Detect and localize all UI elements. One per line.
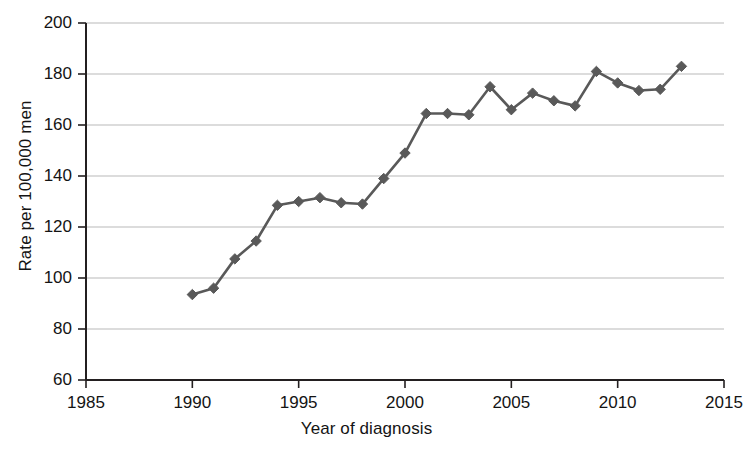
data-point-marker bbox=[315, 192, 325, 202]
data-point-marker bbox=[336, 198, 346, 208]
y-axis-tick-label: 60 bbox=[12, 371, 72, 388]
y-axis-tick-label: 160 bbox=[12, 116, 72, 133]
data-line bbox=[192, 66, 681, 294]
y-axis-tick-label: 180 bbox=[12, 65, 72, 82]
y-axis-tick-label: 200 bbox=[12, 14, 72, 31]
data-point-marker bbox=[442, 108, 452, 118]
y-axis-tick-label: 120 bbox=[12, 218, 72, 235]
data-point-marker bbox=[634, 85, 644, 95]
x-axis-tick-label: 2000 bbox=[365, 394, 445, 411]
y-axis-tick-label: 100 bbox=[12, 269, 72, 286]
x-axis-tick-label: 1985 bbox=[46, 394, 126, 411]
x-axis-tick-label: 2015 bbox=[684, 394, 747, 411]
data-point-marker bbox=[421, 108, 431, 118]
data-point-marker bbox=[549, 96, 559, 106]
y-axis-tick-label: 140 bbox=[12, 167, 72, 184]
y-axis-tick-label: 80 bbox=[12, 320, 72, 337]
x-axis-tick-label: 1995 bbox=[259, 394, 339, 411]
x-axis-tick-label: 2005 bbox=[471, 394, 551, 411]
data-point-marker bbox=[293, 196, 303, 206]
data-point-marker bbox=[612, 78, 622, 88]
x-axis-tick-label: 1990 bbox=[152, 394, 232, 411]
x-axis-tick-label: 2010 bbox=[578, 394, 658, 411]
data-point-marker bbox=[187, 289, 197, 299]
